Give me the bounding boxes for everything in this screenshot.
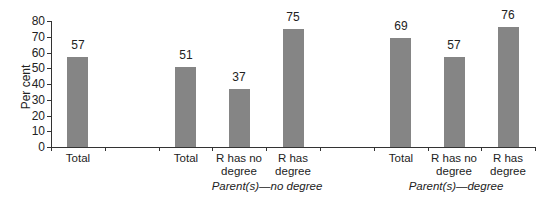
x-tick: [212, 147, 213, 151]
y-tick: [47, 21, 51, 22]
y-tick-label: 0: [21, 141, 45, 153]
y-axis-line: [51, 21, 52, 148]
x-tick: [428, 147, 429, 151]
y-tick-label: 40: [21, 78, 45, 90]
y-tick: [47, 37, 51, 38]
bar: [67, 57, 88, 147]
x-tick: [105, 147, 106, 151]
group-label-parents-degree: Parent(s)—degree: [356, 180, 549, 192]
x-tick: [481, 147, 482, 151]
x-tick: [159, 147, 160, 151]
x-tick: [374, 147, 375, 151]
x-tick: [535, 147, 536, 151]
y-tick: [47, 84, 51, 85]
y-tick: [47, 68, 51, 69]
y-tick-label: 50: [21, 62, 45, 74]
y-tick-label: 80: [21, 15, 45, 27]
data-label: 69: [381, 20, 421, 32]
x-tick: [51, 147, 52, 151]
y-tick-label: 70: [21, 31, 45, 43]
x-tick-label: Total: [159, 152, 213, 165]
data-label: 57: [434, 39, 474, 51]
x-tick-label: R hasdegree: [266, 152, 320, 178]
y-tick: [47, 116, 51, 117]
data-label: 51: [166, 49, 206, 61]
x-tick: [320, 147, 321, 151]
bar: [229, 89, 250, 147]
group-label-parents-no-degree: Parent(s)—no degree: [167, 180, 367, 192]
bar: [444, 57, 465, 147]
bar: [175, 67, 196, 147]
data-label: 57: [58, 39, 98, 51]
y-tick-label: 20: [21, 110, 45, 122]
x-tick: [266, 147, 267, 151]
x-axis-line: [51, 147, 535, 148]
y-tick-label: 10: [21, 125, 45, 137]
data-label: 76: [488, 9, 528, 21]
data-label: 75: [273, 11, 313, 23]
x-tick-label: R has nodegree: [427, 152, 481, 178]
y-tick: [47, 100, 51, 101]
x-tick-label: Total: [51, 152, 105, 165]
y-tick-label: 60: [21, 47, 45, 59]
bar-chart: Per cent 01020304050607080 57Total51Tota…: [0, 0, 549, 206]
x-tick-label: R hasdegree: [481, 152, 535, 178]
bar: [498, 27, 519, 147]
bar: [283, 29, 304, 147]
y-tick-label: 30: [21, 94, 45, 106]
x-tick-label: Total: [374, 152, 428, 165]
data-label: 37: [219, 71, 259, 83]
x-tick-label: R has nodegree: [212, 152, 266, 178]
y-tick: [47, 53, 51, 54]
y-tick: [47, 131, 51, 132]
bar: [390, 38, 411, 147]
